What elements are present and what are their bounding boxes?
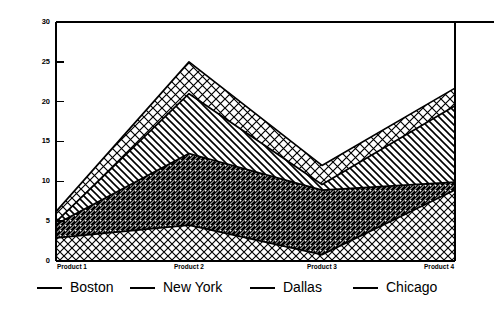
legend-label-new-york[interactable]: New York: [163, 279, 223, 295]
y-tick-label: 15: [42, 136, 50, 145]
y-tick-label: 0: [46, 256, 50, 265]
x-tick-label: Product 2: [174, 263, 204, 270]
y-tick-label: 30: [42, 17, 50, 26]
y-tick-label: 5: [46, 216, 50, 225]
y-tick-label: 20: [42, 97, 50, 106]
y-tick-label: 10: [42, 176, 50, 185]
legend-label-boston[interactable]: Boston: [70, 279, 114, 295]
x-tick-label: Product 3: [307, 263, 337, 270]
x-tick-label: Product 4: [424, 263, 454, 270]
y-tick-label: 25: [42, 57, 50, 66]
chart-container: 051015202530 Product 1Product 2Product 3…: [0, 0, 494, 311]
x-tick-label: Product 1: [57, 263, 87, 270]
stacked-area-chart: 051015202530 Product 1Product 2Product 3…: [0, 0, 494, 311]
legend-label-chicago[interactable]: Chicago: [386, 279, 438, 295]
x-axis: Product 1Product 2Product 3Product 4: [57, 263, 454, 270]
legend-label-dallas[interactable]: Dallas: [283, 279, 322, 295]
chart-legend: BostonNew YorkDallasChicago: [37, 279, 438, 295]
